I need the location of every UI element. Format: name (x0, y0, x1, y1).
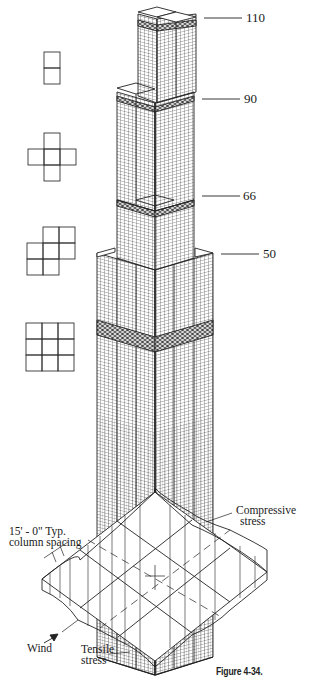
tower-top (138, 7, 196, 103)
tensile-stress-label: Tensile stress (81, 644, 114, 666)
figure-caption: Figure 4-34. (216, 665, 262, 677)
plan-diagrams (26, 52, 76, 371)
floor-label-90: 90 (244, 93, 257, 104)
floor-label-66: 66 (243, 190, 256, 201)
tensile-label-line2: stress (81, 655, 114, 666)
floor-label-110: 110 (246, 12, 265, 23)
floor-label-50: 50 (263, 248, 276, 259)
plan-9-tubes (26, 323, 74, 371)
figure-drawing (0, 0, 309, 680)
compressive-stress-label: Compressive stress (236, 505, 296, 527)
plan-5-tubes (28, 133, 76, 181)
floor-leaders (202, 18, 259, 254)
column-spacing-label: 15' - 0" Typ. column spacing (9, 526, 82, 548)
wind-label: Wind (27, 643, 52, 654)
wind-arrow (44, 620, 78, 643)
compressive-label-line2: stress (236, 516, 296, 527)
plan-7-tubes (27, 227, 75, 275)
plan-2-tubes (44, 52, 60, 84)
column-spacing-line2: column spacing (9, 537, 82, 548)
